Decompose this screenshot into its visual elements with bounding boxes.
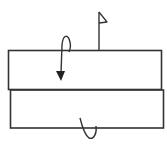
fold-arrow-icon	[56, 36, 70, 81]
flag-icon	[99, 12, 107, 50]
top-panel	[9, 51, 162, 90]
bottom-panel	[11, 90, 164, 128]
fold-diagram	[0, 0, 167, 150]
